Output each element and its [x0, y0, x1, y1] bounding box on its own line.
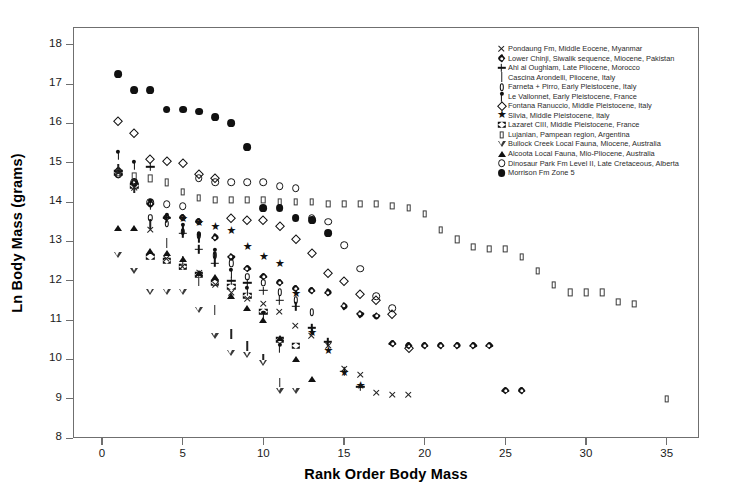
data-point: [354, 381, 366, 393]
data-point: [241, 271, 253, 283]
data-point: [306, 214, 318, 226]
data-point: [241, 141, 253, 153]
data-point: [403, 202, 415, 214]
data-point: [386, 338, 398, 350]
data-point: [661, 393, 673, 405]
x-tick-mark: [666, 438, 667, 445]
x-tick-mark: [343, 438, 344, 445]
data-point: [161, 155, 173, 167]
data-point: [209, 247, 221, 259]
legend-label: Dinosaur Park Fm Level II, Late Cretaceo…: [508, 159, 679, 169]
legend-marker-circle-open: [495, 159, 508, 169]
legend-marker-|: [495, 73, 508, 83]
y-tick-mark: [66, 359, 73, 360]
data-point: [193, 192, 205, 204]
chart-legend: Pondaung Fm, Middle Eocene, MyanmarLower…: [495, 44, 735, 178]
data-point: [338, 367, 350, 379]
y-tick-label: 12: [22, 273, 62, 285]
data-point: [128, 222, 140, 234]
y-tick-mark: [66, 438, 73, 439]
data-point: [161, 286, 173, 298]
data-point: [241, 290, 253, 302]
data-point: [225, 290, 237, 302]
data-point: [306, 373, 318, 385]
data-point: [306, 196, 318, 208]
data-point: [128, 84, 140, 96]
data-point: [241, 194, 253, 206]
data-point: [290, 212, 302, 224]
data-point: [241, 241, 253, 253]
data-point: [177, 186, 189, 198]
data-point: [354, 288, 366, 300]
y-tick-mark: [66, 398, 73, 399]
x-tick-label: 10: [243, 447, 283, 459]
data-point: [516, 385, 528, 397]
data-point: [290, 340, 302, 352]
x-tick-label: 25: [485, 447, 525, 459]
data-point: [144, 172, 156, 184]
data-point: [193, 267, 205, 279]
data-point: [435, 224, 447, 236]
legend-label: Cascina Arondelli, Pliocene, Italy: [508, 73, 615, 83]
legend-item: Morrison Fm Zone 5: [495, 168, 735, 178]
data-point: [257, 357, 269, 369]
legend-label: Ahl al Oughlam, Late Pliocene, Morocco: [508, 63, 640, 73]
y-tick-label: 11: [22, 312, 62, 324]
legend-item: Ahl al Oughlam, Late Pliocene, Morocco: [495, 63, 735, 73]
data-point: [274, 202, 286, 214]
x-tick-mark: [182, 438, 183, 445]
legend-marker-+: [495, 63, 508, 73]
data-point: [144, 153, 156, 165]
data-point: [451, 340, 463, 352]
data-point: [209, 304, 221, 316]
legend-item: Lower Chinji, Siwalik sequence, Miocene,…: [495, 54, 735, 64]
x-tick-mark: [585, 438, 586, 445]
legend-marker-triangle-down: [495, 139, 508, 149]
data-point: [322, 286, 334, 298]
y-tick-mark: [66, 202, 73, 203]
data-point: [467, 340, 479, 352]
data-point: [209, 222, 221, 234]
legend-item: Farneta + Pirro, Early Pleistocene, Ital…: [495, 82, 735, 92]
legend-item: Lujanian, Pampean region, Argentina: [495, 130, 735, 140]
data-point: [128, 159, 140, 171]
data-point: [225, 117, 237, 129]
y-tick-mark: [66, 123, 73, 124]
data-point: [483, 340, 495, 352]
data-point: [386, 302, 398, 314]
data-point: [451, 233, 463, 245]
data-point: [290, 288, 302, 300]
data-point: [225, 212, 237, 224]
data-point: [112, 149, 124, 161]
data-point: [241, 349, 253, 361]
data-point: [370, 198, 382, 210]
legend-label: Lazaret CIII, Middle Pleistocene, France: [508, 120, 639, 130]
data-point: [257, 251, 269, 263]
data-point: [257, 314, 269, 326]
data-point: [274, 220, 286, 232]
legend-item: Bullock Creek Local Fauna, Miocene, Aust…: [495, 139, 735, 149]
data-point: [354, 263, 366, 275]
data-point: [225, 328, 237, 340]
data-point: [370, 310, 382, 322]
legend-item: Pondaung Fm, Middle Eocene, Myanmar: [495, 44, 735, 54]
data-point: [419, 340, 431, 352]
data-point: [144, 84, 156, 96]
data-point: [209, 176, 221, 188]
legend-item: Slivia, Middle Pleistocene, Italy: [495, 111, 735, 121]
data-point: [225, 194, 237, 206]
data-point: [177, 214, 189, 226]
data-point: [290, 320, 302, 332]
legend-item: Fontana Ranuccio, Middle Pleistocene, It…: [495, 101, 735, 111]
data-point: [274, 259, 286, 271]
data-point: [161, 247, 173, 259]
legend-marker-flower: [495, 54, 508, 64]
data-point: [257, 214, 269, 226]
data-point: [532, 265, 544, 277]
data-point: [209, 111, 221, 123]
legend-marker-x: [495, 44, 508, 54]
y-tick-label: 9: [22, 391, 62, 403]
legend-label: Lujanian, Pampean region, Argentina: [508, 130, 630, 140]
data-point: [290, 196, 302, 208]
data-point: [144, 286, 156, 298]
